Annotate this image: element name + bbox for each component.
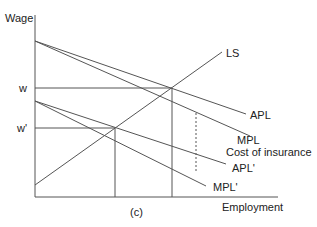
apl-prime-label: APL' xyxy=(232,162,255,174)
figure-caption: (c) xyxy=(130,206,143,218)
mpl-prime-curve xyxy=(35,101,206,186)
apl-prime-curve xyxy=(35,101,226,164)
w-prime-label: w' xyxy=(16,122,27,134)
cost-of-insurance-label: Cost of insurance xyxy=(226,146,312,158)
w-label: w xyxy=(18,82,27,94)
mpl-prime-label: MPL' xyxy=(213,181,238,193)
mpl-label: MPL xyxy=(237,134,260,146)
ls-label: LS xyxy=(226,47,239,59)
apl-curve xyxy=(35,41,246,114)
x-axis-label: Employment xyxy=(222,201,283,213)
labor-market-diagram: Wage Employment w w' LS APL MPL Cost of … xyxy=(0,0,317,227)
ls-curve xyxy=(35,52,222,185)
y-axis-label: Wage xyxy=(5,12,33,24)
apl-label: APL xyxy=(250,109,271,121)
